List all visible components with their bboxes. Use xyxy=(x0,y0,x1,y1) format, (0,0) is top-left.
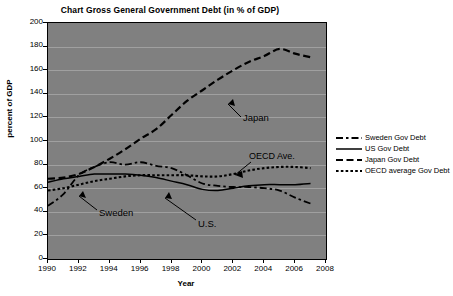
y-tick-label: 140 xyxy=(15,87,43,96)
x-tick-mark xyxy=(140,259,141,263)
chart-legend: Sweden Gov DebtUS Gov DebtJapan Gov Debt… xyxy=(336,132,453,176)
x-axis-title: Year xyxy=(47,279,325,288)
x-tick-mark xyxy=(263,259,264,263)
x-tick-mark xyxy=(325,259,326,263)
x-tick-label: 2002 xyxy=(215,264,249,273)
y-tick-label: 120 xyxy=(15,111,43,120)
annotation-sweden: Sweden xyxy=(99,207,133,218)
x-tick-label: 1990 xyxy=(30,264,64,273)
series-lines xyxy=(48,23,326,259)
legend-swatch-icon xyxy=(336,133,362,143)
y-axis-title: percent of GDP xyxy=(5,54,14,164)
y-tick-label: 0 xyxy=(15,253,43,262)
y-tick-label: 200 xyxy=(15,17,43,26)
annotation-us: U.S. xyxy=(198,218,216,229)
x-tick-label: 2004 xyxy=(246,264,280,273)
x-tick-mark xyxy=(201,259,202,263)
y-tick-label: 100 xyxy=(15,135,43,144)
series-line-oecd-average-gov-debt xyxy=(48,167,311,191)
x-tick-label: 2006 xyxy=(277,264,311,273)
legend-swatch-icon xyxy=(336,155,362,165)
x-tick-mark xyxy=(109,259,110,263)
x-tick-label: 1998 xyxy=(154,264,188,273)
legend-label: OECD average Gov Debt xyxy=(365,166,450,175)
x-tick-mark xyxy=(47,259,48,263)
chart-title: Chart Gross General Government Debt (in … xyxy=(0,5,340,15)
legend-item[interactable]: OECD average Gov Debt xyxy=(336,165,453,176)
legend-label: Japan Gov Debt xyxy=(365,155,419,164)
y-tick-label: 20 xyxy=(15,229,43,238)
y-tick-label: 180 xyxy=(15,40,43,49)
chart-container: Chart Gross General Government Debt (in … xyxy=(0,0,453,296)
x-tick-mark xyxy=(171,259,172,263)
legend-item[interactable]: US Gov Debt xyxy=(336,143,453,154)
y-tick-label: 80 xyxy=(15,158,43,167)
x-tick-mark xyxy=(294,259,295,263)
y-tick-label: 40 xyxy=(15,205,43,214)
annotation-japan: Japan xyxy=(243,112,269,123)
legend-swatch-icon xyxy=(336,166,362,176)
y-tick-label: 60 xyxy=(15,182,43,191)
legend-swatch-icon xyxy=(336,144,362,154)
y-tick-label: 160 xyxy=(15,64,43,73)
legend-label: US Gov Debt xyxy=(365,144,409,153)
legend-item[interactable]: Japan Gov Debt xyxy=(336,154,453,165)
x-tick-label: 2008 xyxy=(308,264,342,273)
annotation-oecd: OECD Ave. xyxy=(249,151,295,161)
x-tick-mark xyxy=(232,259,233,263)
x-tick-label: 1996 xyxy=(123,264,157,273)
x-tick-label: 2000 xyxy=(184,264,218,273)
x-tick-mark xyxy=(78,259,79,263)
legend-label: Sweden Gov Debt xyxy=(365,133,426,142)
plot-area xyxy=(47,22,327,260)
x-tick-label: 1992 xyxy=(61,264,95,273)
legend-item[interactable]: Sweden Gov Debt xyxy=(336,132,453,143)
x-tick-label: 1994 xyxy=(92,264,126,273)
